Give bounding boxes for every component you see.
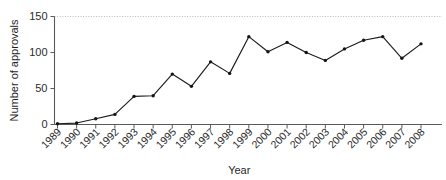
x-tick-label: 2007 [383, 125, 408, 150]
data-point [324, 59, 327, 62]
y-tick-group: 050100150 [29, 10, 54, 130]
line-chart: 0501001501989199019911992199319941995199… [0, 0, 446, 180]
x-tick-label: 1997 [191, 125, 216, 150]
x-tick-label: 2003 [306, 125, 331, 150]
data-point [362, 39, 365, 42]
data-point [400, 57, 403, 60]
data-point [247, 35, 250, 38]
data-point [419, 42, 422, 45]
data-point [132, 95, 135, 98]
data-point [209, 60, 212, 63]
data-point [343, 47, 346, 50]
x-tick-label: 2006 [364, 125, 389, 150]
x-tick-label: 1999 [230, 125, 255, 150]
x-tick-group: 1989199019911992199319941995199619971998… [38, 125, 427, 151]
x-axis-title: Year [228, 164, 251, 176]
series-line-approvals [58, 37, 422, 124]
y-tick-label: 100 [29, 46, 47, 58]
data-point [171, 72, 174, 75]
series-markers [56, 35, 423, 126]
x-tick-label: 1998 [211, 125, 236, 150]
x-tick-label: 1995 [153, 125, 178, 150]
y-axis-title: Number of approvals [8, 19, 20, 122]
data-point [94, 117, 97, 120]
x-tick-label: 1992 [96, 125, 121, 150]
x-tick-label: 1993 [115, 125, 140, 150]
x-tick-label: 2008 [402, 125, 427, 150]
x-tick-label: 2005 [345, 125, 370, 150]
data-point [56, 122, 59, 125]
data-point [266, 50, 269, 53]
x-tick-label: 1990 [58, 125, 83, 150]
data-point [285, 41, 288, 44]
data-point [75, 121, 78, 124]
chart-figure: 0501001501989199019911992199319941995199… [0, 0, 446, 180]
y-tick-label: 150 [29, 10, 47, 22]
data-point [381, 35, 384, 38]
x-tick-label: 2000 [249, 125, 274, 150]
y-tick-label: 0 [41, 118, 47, 130]
x-tick-label: 1994 [134, 125, 159, 150]
x-tick-label: 2001 [268, 125, 293, 150]
x-tick-label: 2002 [287, 125, 312, 150]
data-point [113, 113, 116, 116]
data-point [190, 85, 193, 88]
data-point [228, 72, 231, 75]
data-point [305, 51, 308, 54]
data-point [151, 94, 154, 97]
x-tick-label: 1991 [77, 125, 102, 150]
y-tick-label: 50 [35, 82, 47, 94]
x-tick-label: 1996 [172, 125, 197, 150]
x-tick-label: 2004 [325, 125, 350, 150]
